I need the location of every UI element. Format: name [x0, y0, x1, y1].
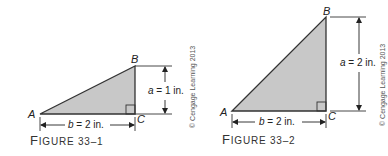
vertex-b-label: B: [131, 53, 138, 65]
vertex-c-label: C: [137, 113, 145, 125]
figures-canvas: A B C a = 1 in. b = 2 in. FIGURE 33–1 © …: [0, 0, 388, 156]
side-b-label: b = 2 in.: [68, 119, 104, 130]
copyright-notice: © Cengage Learning 2013: [189, 46, 197, 128]
triangle-abc: [40, 66, 135, 114]
vertex-a-label: A: [219, 106, 227, 118]
figure-caption: FIGURE 33–2: [222, 132, 295, 147]
vertex-b-label: B: [323, 5, 330, 17]
side-a-label: a = 2 in.: [340, 57, 376, 68]
side-a-label: a = 1 in.: [148, 85, 184, 96]
figure-33-2: A B C a = 2 in. b = 2 in. FIGURE 33–2 © …: [219, 5, 387, 147]
figure-33-1: A B C a = 1 in. b = 2 in. FIGURE 33–1 © …: [27, 46, 197, 148]
vertex-c-label: C: [328, 110, 336, 122]
triangle-abc: [232, 17, 326, 111]
side-b-label: b = 2 in.: [259, 116, 295, 127]
vertex-a-label: A: [27, 108, 35, 120]
figure-caption: FIGURE 33–1: [30, 133, 103, 148]
copyright-notice: © Cengage Learning 2013: [379, 44, 387, 126]
